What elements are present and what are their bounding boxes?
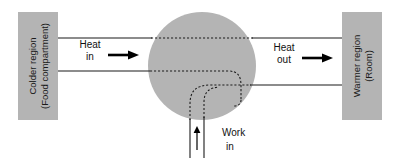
refrigerator-energy-flow-diagram: Colder region (Food compartment) Warmer … xyxy=(0,0,400,164)
warmer-region-label-line1: Warmer region xyxy=(351,35,362,97)
heat-in-arrow-icon xyxy=(108,51,139,60)
heat-out-label-line1: Heat xyxy=(273,42,294,53)
heat-in-label-line1: Heat xyxy=(79,39,100,50)
heat-out-arrow-icon xyxy=(302,54,333,63)
heat-out-label-line2: out xyxy=(277,54,291,65)
work-in-label-line2: in xyxy=(226,141,234,152)
work-in-arrow-icon xyxy=(194,126,201,150)
warmer-region-rect xyxy=(342,12,382,120)
diagram-canvas: Colder region (Food compartment) Warmer … xyxy=(0,0,400,164)
warmer-region-label-line2: (Room) xyxy=(363,50,374,82)
colder-region-rect xyxy=(18,12,58,120)
colder-region-label-line2: (Food compartment) xyxy=(39,23,50,109)
heat-in-label-line2: in xyxy=(86,51,94,62)
heat-out-annotation: Heat out xyxy=(273,42,333,65)
work-in-annotation: Work in xyxy=(194,126,247,152)
heat-in-annotation: Heat in xyxy=(79,39,139,62)
heat-in-duct xyxy=(58,38,152,71)
heat-out-duct xyxy=(250,38,342,85)
colder-region-block: Colder region (Food compartment) xyxy=(18,12,58,120)
warmer-region-block: Warmer region (Room) xyxy=(342,12,382,120)
work-in-label-line1: Work xyxy=(222,127,246,138)
colder-region-label-line1: Colder region xyxy=(27,37,38,94)
